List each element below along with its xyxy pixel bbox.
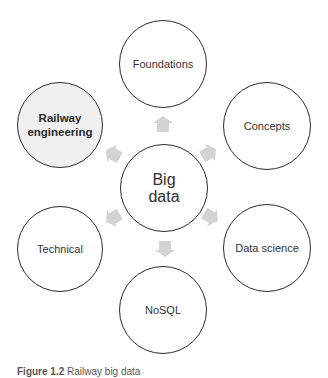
arrow-down-left-icon (101, 205, 125, 230)
node-data-science: Data science (223, 204, 311, 292)
node-big-data-center: Big data (120, 144, 208, 232)
center-label-line1: Big (152, 171, 175, 188)
node-label: Foundations (127, 58, 200, 71)
node-label: Railway engineering (21, 111, 98, 139)
node-label: NoSQL (139, 304, 187, 317)
node-label: Concepts (238, 120, 296, 133)
node-technical: Technical (17, 206, 103, 292)
node-foundations: Foundations (119, 20, 207, 108)
arrow-down-icon (155, 241, 175, 257)
arrow-up-icon (153, 116, 173, 132)
node-label-line2: engineering (27, 126, 92, 138)
figure-number: Figure 1.2 (17, 366, 64, 377)
center-label-line2: data (148, 188, 179, 205)
node-label-line1: Railway (39, 112, 82, 124)
node-label: Data science (229, 242, 305, 255)
node-concepts: Concepts (223, 82, 311, 170)
figure-caption: Figure 1.2 Railway big data (17, 366, 140, 378)
arrow-up-right-icon (197, 140, 221, 165)
center-label: Big data (142, 171, 185, 205)
node-nosql: NoSQL (119, 266, 207, 354)
node-railway-engineering: Railway engineering (17, 82, 103, 168)
figure-caption-text: Railway big data (67, 366, 140, 377)
arrow-up-left-icon (101, 141, 125, 166)
node-label: Technical (31, 243, 89, 256)
